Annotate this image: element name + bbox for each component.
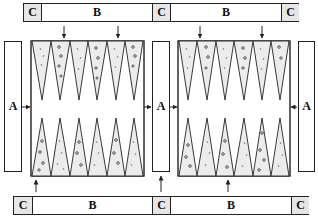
board-diagram bbox=[0, 0, 318, 219]
right-board-frame bbox=[178, 41, 290, 176]
